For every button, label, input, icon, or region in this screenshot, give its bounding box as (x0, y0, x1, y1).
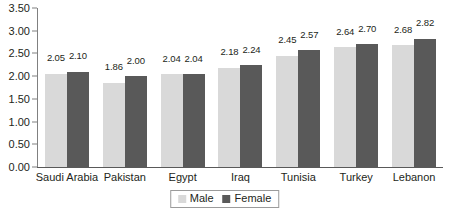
bar-female (298, 50, 320, 167)
bar-male (161, 74, 183, 167)
bar-value-label: 2.70 (358, 23, 376, 33)
bar-value-label: 2.24 (242, 44, 260, 54)
bar-value-label: 2.05 (47, 53, 65, 63)
y-tick-label: 2.50 (9, 48, 30, 59)
x-tick-label: Lebanon (393, 170, 436, 184)
bar-male (103, 83, 125, 167)
y-tick-label: 2.00 (9, 71, 30, 82)
x-tick-label: Tunisia (281, 170, 316, 184)
bar-group: 1.862.00 (96, 8, 154, 167)
bar-value-label: 2.10 (69, 51, 87, 61)
y-tick-label: 1.50 (9, 93, 30, 104)
bar-male (276, 56, 298, 167)
bar-value-label: 2.00 (127, 55, 145, 65)
bar-value-label: 2.68 (394, 24, 412, 34)
bar-group: 2.042.04 (154, 8, 212, 167)
bar-value-label: 2.18 (220, 47, 238, 57)
legend-swatch-icon (178, 195, 186, 203)
x-tick-label: Saudi Arabia (36, 170, 98, 184)
bar-female (414, 39, 436, 167)
bar-value-label: 2.04 (185, 53, 203, 63)
x-axis-line (37, 167, 443, 168)
bar-group: 2.052.10 (38, 8, 96, 167)
bar-value-label: 2.82 (416, 18, 434, 28)
legend-label: Female (235, 193, 272, 204)
x-axis: Saudi ArabiaPakistanEgyptIraqTunisiaTurk… (38, 170, 443, 186)
plot-area: 0.000.501.001.502.002.503.003.50 2.052.1… (0, 0, 449, 186)
bar-value-label: 2.64 (336, 26, 354, 36)
bar-group: 2.682.82 (385, 8, 443, 167)
legend-item-male[interactable]: Male (178, 193, 214, 204)
bars-container: 2.052.101.862.002.042.042.182.242.452.57… (38, 8, 443, 167)
x-tick-label: Egypt (169, 170, 197, 184)
bar-chart: 0.000.501.001.502.002.503.003.50 2.052.1… (0, 0, 449, 216)
bar-female (67, 72, 89, 167)
bar-male (218, 68, 240, 167)
x-tick-label: Pakistan (104, 170, 146, 184)
legend-swatch-icon (223, 195, 231, 203)
bar-value-label: 2.57 (300, 29, 318, 39)
x-tick-label: Turkey (340, 170, 373, 184)
y-tick-label: 3.50 (9, 3, 30, 14)
chart-legend: MaleFemale (170, 190, 280, 208)
bar-female (356, 44, 378, 167)
bar-male (392, 45, 414, 167)
bar-male (334, 47, 356, 167)
bar-male (45, 74, 67, 167)
bar-value-label: 2.04 (163, 53, 181, 63)
y-tick-label: 3.00 (9, 25, 30, 36)
bar-value-label: 2.45 (278, 35, 296, 45)
y-tick-label: 1.00 (9, 116, 30, 127)
bar-female (125, 76, 147, 167)
bar-group: 2.642.70 (327, 8, 385, 167)
x-tick-label: Iraq (231, 170, 250, 184)
legend-item-female[interactable]: Female (223, 193, 272, 204)
y-axis: 0.000.501.001.502.002.503.003.50 (0, 0, 38, 186)
bar-group: 2.452.57 (269, 8, 327, 167)
bar-value-label: 1.86 (105, 62, 123, 72)
bar-female (240, 65, 262, 167)
bar-female (183, 74, 205, 167)
y-tick-label: 0.00 (9, 162, 30, 173)
legend-label: Male (190, 193, 214, 204)
bar-group: 2.182.24 (212, 8, 270, 167)
y-tick-label: 0.50 (9, 139, 30, 150)
